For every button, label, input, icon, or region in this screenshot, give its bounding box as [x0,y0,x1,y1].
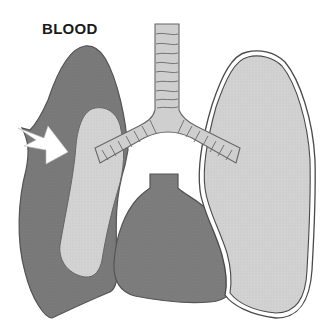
blood-label: BLOOD [42,20,98,37]
lung-diagram [0,0,331,334]
